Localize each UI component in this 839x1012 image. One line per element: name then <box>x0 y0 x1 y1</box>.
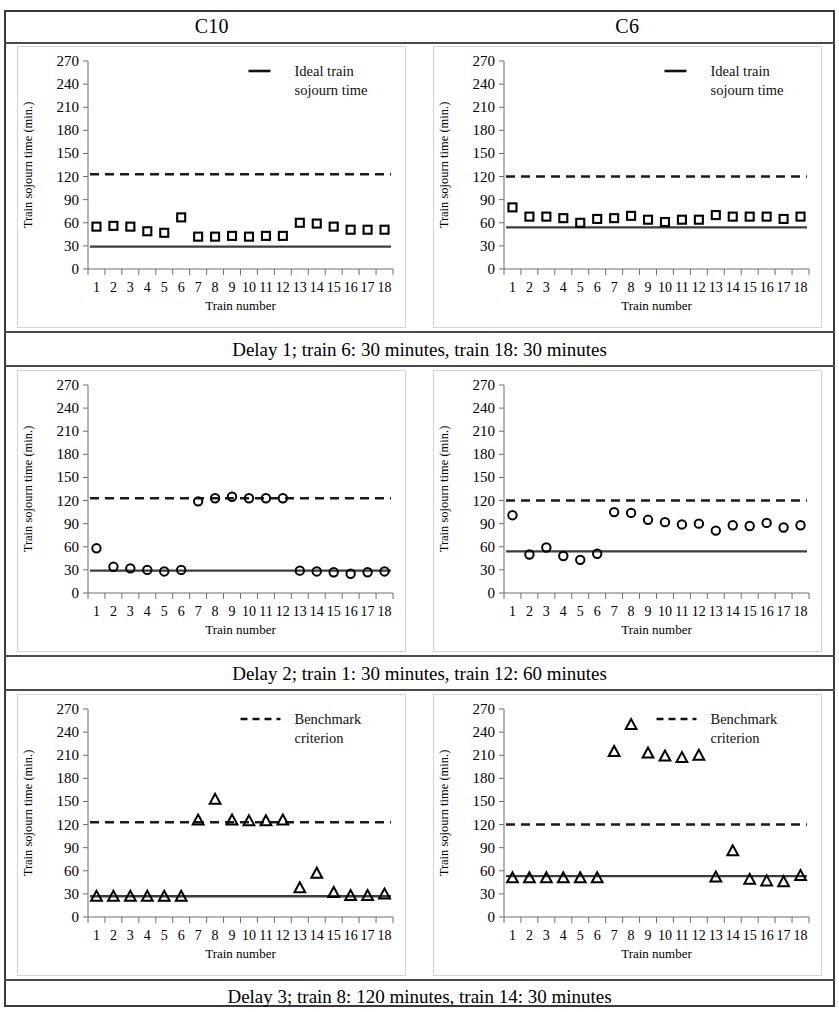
x-tick-label: 3 <box>543 280 550 295</box>
rule-under-row1 <box>4 331 835 333</box>
legend-label-line1: Benchmark <box>295 711 363 727</box>
x-tick-label: 9 <box>229 604 236 619</box>
figure-table: C10 C6 Train sojourn time (min.)03060901… <box>0 0 839 1012</box>
x-tick-label: 10 <box>242 280 256 295</box>
x-tick-label: 3 <box>543 928 550 943</box>
x-tick-label: 13 <box>293 604 307 619</box>
chart-row-delay1: Train sojourn time (min.)030609012015018… <box>4 46 835 328</box>
chart-c10-delay1: Train sojourn time (min.)030609012015018… <box>17 46 406 328</box>
x-tick-label: 8 <box>212 928 219 943</box>
x-tick-label: 12 <box>276 280 290 295</box>
x-tick-label: 2 <box>526 280 533 295</box>
data-point <box>778 876 789 886</box>
data-point <box>711 526 719 534</box>
x-axis-title: Train number <box>205 298 276 313</box>
y-tick-label: 210 <box>472 423 495 439</box>
x-tick-label: 12 <box>276 928 290 943</box>
x-axis-title: Train number <box>621 622 692 637</box>
x-tick-label: 16 <box>344 280 358 295</box>
y-tick-label: 90 <box>480 192 495 208</box>
x-tick-label: 13 <box>293 928 307 943</box>
x-tick-label: 17 <box>776 928 790 943</box>
y-tick-label: 150 <box>472 469 495 485</box>
y-tick-label: 240 <box>57 724 80 740</box>
data-point <box>194 233 202 241</box>
y-tick-label: 270 <box>472 53 495 69</box>
y-tick-label: 120 <box>472 817 495 833</box>
y-tick-label: 0 <box>487 909 495 925</box>
x-tick-label: 1 <box>93 604 100 619</box>
x-axis-title: Train number <box>621 946 692 961</box>
x-tick-label: 18 <box>378 604 392 619</box>
x-tick-label: 6 <box>593 604 600 619</box>
x-tick-label: 12 <box>692 280 706 295</box>
data-point <box>210 794 221 804</box>
data-series <box>93 493 389 578</box>
x-tick-label: 2 <box>110 280 117 295</box>
data-point <box>627 509 635 517</box>
data-point <box>279 232 287 240</box>
y-axis-title: Train sojourn time (min.) <box>21 102 35 229</box>
y-tick-label: 90 <box>480 516 495 532</box>
y-tick-label: 210 <box>57 747 80 763</box>
x-tick-label: 16 <box>759 928 773 943</box>
legend-label-line2: criterion <box>295 730 345 746</box>
data-point <box>727 845 738 855</box>
y-tick-label: 180 <box>57 770 80 786</box>
data-point <box>779 215 787 223</box>
x-tick-label: 11 <box>259 604 272 619</box>
x-tick-label: 3 <box>543 604 550 619</box>
y-tick-label: 150 <box>472 793 495 809</box>
data-point <box>559 214 567 222</box>
x-tick-label: 12 <box>692 928 706 943</box>
x-tick-label: 15 <box>327 280 341 295</box>
y-tick-label: 270 <box>57 53 80 69</box>
y-tick-label: 120 <box>472 493 495 509</box>
y-tick-label: 60 <box>480 539 495 555</box>
y-tick-label: 0 <box>487 261 495 277</box>
x-tick-label: 16 <box>344 928 358 943</box>
x-tick-label: 15 <box>327 928 341 943</box>
x-tick-label: 4 <box>560 928 567 943</box>
x-tick-label: 5 <box>161 280 168 295</box>
data-point <box>295 882 306 892</box>
data-point <box>610 508 618 516</box>
x-tick-label: 2 <box>526 928 533 943</box>
chart-legend: Benchmarkcriterion <box>656 711 778 746</box>
data-series <box>508 508 804 564</box>
data-point <box>542 213 550 221</box>
y-tick-label: 0 <box>72 585 80 601</box>
x-tick-label: 11 <box>675 928 688 943</box>
data-point <box>644 216 652 224</box>
column-header-c6: C6 <box>420 11 836 41</box>
x-tick-label: 8 <box>627 280 634 295</box>
x-tick-label: 3 <box>127 604 134 619</box>
data-point <box>661 218 669 226</box>
data-point <box>93 544 101 552</box>
x-tick-label: 5 <box>577 280 584 295</box>
y-tick-label: 30 <box>64 886 79 902</box>
chart-c10-delay3: Train sojourn time (min.)030609012015018… <box>17 694 406 976</box>
legend-label-line1: Ideal train <box>710 63 770 79</box>
y-tick-label: 150 <box>57 469 80 485</box>
y-tick-label: 30 <box>480 886 495 902</box>
data-point <box>278 815 289 825</box>
x-tick-label: 11 <box>675 280 688 295</box>
x-tick-label: 18 <box>793 280 807 295</box>
x-tick-label: 7 <box>610 928 617 943</box>
x-tick-label: 17 <box>776 280 790 295</box>
x-tick-label: 8 <box>627 928 634 943</box>
y-tick-label: 270 <box>472 701 495 717</box>
x-tick-label: 10 <box>658 604 672 619</box>
y-tick-label: 0 <box>487 585 495 601</box>
y-tick-label: 150 <box>57 145 80 161</box>
y-axis-title: Train sojourn time (min.) <box>437 102 451 229</box>
x-tick-label: 12 <box>276 604 290 619</box>
y-tick-label: 210 <box>472 99 495 115</box>
x-tick-label: 1 <box>509 280 516 295</box>
x-axis-title: Train number <box>205 946 276 961</box>
data-series <box>507 719 806 886</box>
chart-c6-delay3: Train sojourn time (min.)030609012015018… <box>433 694 822 976</box>
data-point <box>508 511 516 519</box>
data-point <box>676 752 687 762</box>
